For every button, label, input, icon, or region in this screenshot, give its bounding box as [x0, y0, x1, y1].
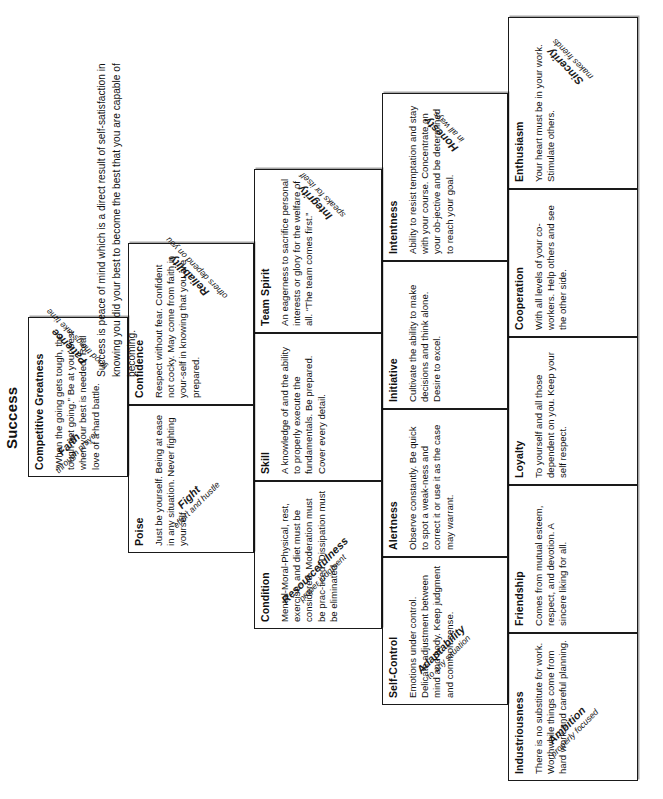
block-description: Cultivate the ability to make decisions …	[407, 268, 444, 402]
success-definition: Success is peace of mind which is a dire…	[95, 47, 139, 377]
page-title: Success	[3, 387, 20, 449]
block-title: Friendship	[514, 492, 526, 626]
block-title: Poise	[134, 412, 146, 546]
pyramid-of-success-diagram: Industriousness There is no substitute f…	[0, 0, 663, 799]
block-cooperation[interactable]: Cooperation With all levels of your co-w…	[508, 189, 638, 337]
block-title: Loyalty	[514, 344, 526, 478]
block-title: Intentness	[388, 100, 400, 254]
block-title: Condition	[260, 488, 272, 622]
block-description: Comes from mutual esteem, respect, and d…	[533, 492, 570, 626]
block-title: Skill	[260, 340, 272, 474]
block-description: To yourself and all those dependent on y…	[533, 344, 570, 478]
block-title: Alertness	[388, 416, 400, 550]
pyramid: Industriousness There is no substitute f…	[0, 0, 663, 799]
block-alertness[interactable]: Alertness Observe constantly. Be quick t…	[382, 409, 508, 557]
block-title: Initiative	[388, 268, 400, 402]
block-title: Enthusiasm	[514, 24, 526, 182]
block-loyalty[interactable]: Loyalty To yourself and all those depend…	[508, 337, 638, 485]
block-title: Self-Control	[388, 564, 400, 698]
block-title: Team Spirit	[260, 176, 272, 326]
block-skill[interactable]: Skill A knowledge of and the ability to …	[254, 333, 382, 481]
block-title: Cooperation	[514, 196, 526, 330]
block-friendship[interactable]: Friendship Comes from mutual esteem, res…	[508, 485, 638, 633]
block-enthusiasm[interactable]: Enthusiasm Your heart must be in your wo…	[508, 17, 638, 189]
block-title: Competitive Greatness	[34, 324, 46, 470]
block-description: With all levels of your co-workers. Help…	[533, 196, 570, 330]
block-initiative[interactable]: Initiative Cultivate the ability to make…	[382, 261, 508, 409]
block-title: Industriousness	[514, 640, 526, 774]
block-description: A knowledge of and the ability to proper…	[279, 340, 328, 474]
block-description: Observe constantly. Be quick to spot a w…	[407, 416, 456, 550]
